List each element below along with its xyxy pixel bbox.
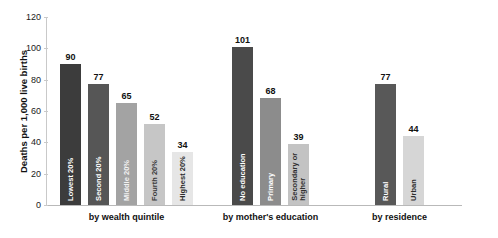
bar-value-label: 90 (65, 53, 75, 62)
y-tick-mark (44, 111, 48, 112)
bar-category-label: Urban (410, 179, 418, 201)
bar-category-label: No education (239, 153, 247, 201)
bar-value-label: 77 (93, 73, 103, 82)
bar-category-label: Second 20% (95, 157, 103, 201)
bar: 34Highest 20% (172, 152, 193, 205)
bar-category-label: Primary (267, 173, 275, 201)
bar: 68Primary (260, 98, 281, 205)
y-tick-mark (44, 80, 48, 81)
x-axis-baseline (46, 205, 462, 206)
bar: 52Fourth 20% (144, 124, 165, 205)
y-tick-label: 60 (31, 106, 41, 116)
bar-category-label: Highest 20% (179, 156, 187, 201)
y-tick-mark (44, 48, 48, 49)
y-tick: 0 (46, 205, 50, 206)
bar-value-label: 65 (121, 92, 131, 101)
bar: 39Secondary or higher (288, 144, 309, 205)
y-tick: 60 (46, 111, 50, 112)
bar: 90Lowest 20% (60, 64, 81, 205)
y-tick: 20 (46, 174, 50, 175)
bar-chart: Deaths per 1,000 live births 02040608010… (0, 0, 498, 238)
y-tick-mark (44, 174, 48, 175)
plot-area: 020406080100120 90Lowest 20%77Second 20%… (46, 17, 462, 205)
y-tick: 40 (46, 142, 50, 143)
bar-category-label: Middle 20% (123, 160, 131, 201)
bar-category-label: Rural (382, 182, 390, 201)
y-tick: 100 (46, 48, 50, 49)
y-tick-mark (44, 205, 48, 206)
bar: 101No education (232, 47, 253, 205)
bar-value-label: 68 (265, 87, 275, 96)
bar-category-label: Fourth 20% (151, 160, 159, 201)
y-tick: 80 (46, 80, 50, 81)
bar-value-label: 34 (177, 141, 187, 150)
group-caption: by mother's education (223, 212, 319, 222)
y-tick-label: 80 (31, 75, 41, 85)
y-tick: 120 (46, 17, 50, 18)
bar-category-label: Lowest 20% (67, 158, 75, 201)
group-caption: by wealth quintile (89, 212, 165, 222)
bar: 65Middle 20% (116, 103, 137, 205)
bar-category-label: Secondary or higher (291, 143, 307, 201)
bar: 44Urban (403, 136, 424, 205)
bar-value-label: 52 (149, 113, 159, 122)
bar-value-label: 101 (235, 36, 250, 45)
y-tick-label: 0 (36, 200, 41, 210)
group-caption: by residence (372, 212, 427, 222)
bar-value-label: 77 (380, 73, 390, 82)
bar-value-label: 44 (408, 125, 418, 134)
y-tick-label: 120 (26, 12, 41, 22)
y-tick-label: 40 (31, 137, 41, 147)
y-tick-label: 100 (26, 43, 41, 53)
bar: 77Second 20% (88, 84, 109, 205)
y-tick-mark (44, 142, 48, 143)
bar-value-label: 39 (293, 133, 303, 142)
y-tick-label: 20 (31, 169, 41, 179)
y-tick-mark (44, 17, 48, 18)
bar: 77Rural (375, 84, 396, 205)
